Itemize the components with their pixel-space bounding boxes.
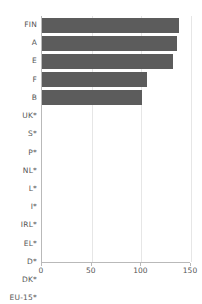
y-axis-label-el: EL*: [0, 235, 38, 253]
bar-f: [42, 72, 147, 87]
y-axis-label-uk: UK*: [0, 107, 38, 125]
bar-row: [42, 144, 190, 162]
bar-row: [42, 289, 190, 304]
y-axis-label-e: E: [0, 52, 38, 70]
y-axis-label-s: S*: [0, 125, 38, 143]
y-axis-label-b: B: [0, 89, 38, 107]
bar-row: [42, 125, 190, 143]
bar-row: [42, 107, 190, 125]
x-axis-label-150: 150: [183, 266, 197, 275]
x-axis-label-50: 50: [86, 266, 96, 275]
y-axis-label-l: L*: [0, 180, 38, 198]
x-axis-label-100: 100: [133, 266, 147, 275]
bar-b: [42, 90, 142, 105]
y-axis-label-eu-15: EU-15*: [0, 289, 38, 304]
bar-row: [42, 235, 190, 253]
y-axis-label-p: P*: [0, 144, 38, 162]
bar-row: [42, 216, 190, 234]
plot-area: [41, 16, 190, 263]
bar-row: [42, 198, 190, 216]
y-axis-label-a: A: [0, 34, 38, 52]
bar-row: [42, 71, 190, 89]
x-axis-label-0: 0: [39, 266, 44, 275]
bar-row: [42, 162, 190, 180]
y-axis-category-labels: FINAEFBUK*S*P*NL*L*I*IRL*EL*D*DK*EU-15*: [0, 16, 38, 263]
bar-row: [42, 52, 190, 70]
y-axis-label-fin: FIN: [0, 16, 38, 34]
bar-row: [42, 16, 190, 34]
bar-row: [42, 34, 190, 52]
bar-e: [42, 54, 173, 69]
y-axis-label-nl: NL*: [0, 162, 38, 180]
bar-fin: [42, 18, 179, 33]
bars-layer: [42, 16, 190, 262]
y-axis-label-f: F: [0, 71, 38, 89]
y-axis-label-irl: IRL*: [0, 216, 38, 234]
bar-row: [42, 180, 190, 198]
y-axis-label-i: I*: [0, 198, 38, 216]
gridline-150: [191, 16, 192, 262]
bar-row: [42, 89, 190, 107]
bar-a: [42, 36, 177, 51]
x-axis-tick-labels: 050100150: [0, 266, 202, 280]
